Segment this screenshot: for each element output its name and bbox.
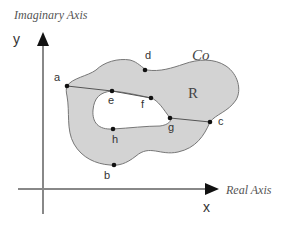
point-b-label: b	[104, 170, 110, 181]
region-r-shape	[66, 59, 239, 165]
point-h-dot	[111, 127, 116, 132]
point-d-dot	[143, 68, 148, 73]
point-g-dot	[168, 116, 173, 121]
y-axis-title: Imaginary Axis	[14, 9, 87, 21]
point-e-label: e	[108, 95, 114, 106]
x-axis-title: Real Axis	[226, 184, 271, 196]
y-axis-letter: y	[13, 32, 20, 46]
point-c-dot	[208, 120, 213, 125]
point-a-label: a	[54, 72, 60, 83]
point-g-label: g	[168, 122, 174, 133]
y-axis-arrow-icon	[37, 32, 49, 46]
x-axis-letter: x	[203, 200, 210, 214]
point-c-label: c	[218, 116, 224, 127]
contour-label: Co	[192, 48, 210, 63]
point-a-dot	[65, 84, 70, 89]
point-b-dot	[112, 163, 117, 168]
point-f-dot	[149, 96, 154, 101]
point-e-dot	[110, 89, 115, 94]
x-axis-arrow-icon	[205, 183, 219, 195]
point-d-label: d	[145, 50, 151, 61]
region-label: R	[188, 86, 198, 101]
diagram-canvas: Imaginary Axis y Real Axis x R Co a b c …	[0, 0, 298, 227]
point-f-label: f	[141, 99, 144, 110]
point-h-label: h	[112, 134, 118, 145]
